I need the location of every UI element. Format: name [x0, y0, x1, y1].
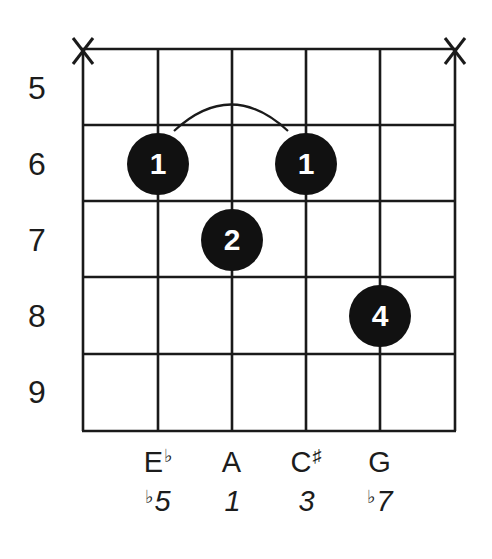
fret-number-7: 7: [17, 224, 57, 256]
muted-string-markers: [73, 38, 465, 64]
fret-number-8: 8: [17, 300, 57, 332]
fret-lines: [82, 49, 456, 431]
interval-degree: 1: [224, 485, 240, 517]
finger-dot-string4-fret6: 1: [275, 133, 337, 195]
flat-symbol: ♭: [164, 446, 172, 466]
note-name: C: [291, 446, 312, 478]
note-name: A: [222, 446, 241, 478]
chord-diagram: 5 6 7 8 9 1 1 2 4 E♭ A C♯ G ♭5 1 3 ♭7: [0, 0, 492, 559]
note-name: E: [144, 446, 163, 478]
flat-symbol: ♭: [145, 487, 153, 507]
interval-label-string3: 1: [197, 486, 267, 520]
finger-dot-string3-fret7: 2: [201, 209, 263, 271]
note-name: G: [368, 446, 391, 478]
note-label-string3: A: [197, 447, 267, 481]
fret-number-6: 6: [17, 148, 57, 180]
finger-dot-string5-fret8: 4: [349, 285, 411, 347]
note-label-string4: C♯: [271, 447, 341, 481]
interval-degree: 3: [298, 485, 314, 517]
fret-number-5: 5: [17, 72, 57, 104]
interval-label-string5: ♭7: [345, 486, 415, 520]
string-lines: [83, 49, 455, 431]
interval-degree: 5: [154, 485, 170, 517]
interval-label-string2: ♭5: [123, 486, 193, 520]
flat-symbol: ♭: [367, 487, 375, 507]
note-label-string2: E♭: [123, 447, 193, 481]
interval-degree: 7: [376, 485, 392, 517]
fret-number-9: 9: [17, 376, 57, 408]
note-label-string5: G: [345, 447, 415, 481]
finger-dot-string2-fret6: 1: [127, 133, 189, 195]
sharp-symbol: ♯: [312, 446, 321, 466]
interval-label-string4: 3: [271, 486, 341, 520]
